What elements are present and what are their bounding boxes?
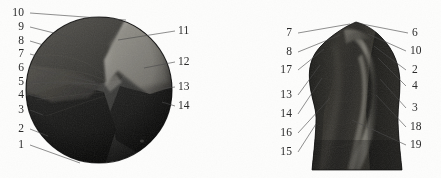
callout-15: 15 (268, 146, 292, 157)
callout-3: 3 (412, 102, 418, 113)
callout-14: 14 (178, 100, 190, 111)
callout-17: 17 (268, 64, 292, 75)
callout-13: 13 (268, 89, 292, 100)
vessel-specimen-panel: 7 8 17 13 14 16 15 6 10 2 4 3 18 19 (220, 0, 441, 178)
callout-10: 10 (2, 7, 24, 18)
callout-13: 13 (178, 81, 190, 92)
callout-9: 9 (2, 21, 24, 32)
spherical-specimen-panel: 10 9 8 7 6 5 4 3 2 1 11 12 13 14 (0, 0, 220, 178)
callout-19: 19 (410, 139, 422, 150)
callout-10: 10 (410, 45, 422, 56)
callout-7: 7 (2, 48, 24, 59)
callout-6: 6 (412, 27, 418, 38)
callout-7: 7 (268, 27, 292, 38)
vessel-specimen-image (220, 0, 441, 178)
callout-8: 8 (2, 35, 24, 46)
callout-4: 4 (2, 89, 24, 100)
callout-14: 14 (268, 108, 292, 119)
callout-4: 4 (412, 80, 418, 91)
callout-5: 5 (2, 76, 24, 87)
callout-2: 2 (2, 123, 24, 134)
callout-1: 1 (2, 139, 24, 150)
callout-3: 3 (2, 104, 24, 115)
callout-2: 2 (412, 64, 418, 75)
callout-18: 18 (410, 121, 422, 132)
callout-12: 12 (178, 56, 190, 67)
callout-16: 16 (268, 127, 292, 138)
callout-6: 6 (2, 62, 24, 73)
figure-root: 10 9 8 7 6 5 4 3 2 1 11 12 13 14 (0, 0, 441, 178)
callout-8: 8 (268, 46, 292, 57)
callout-11: 11 (178, 25, 189, 36)
